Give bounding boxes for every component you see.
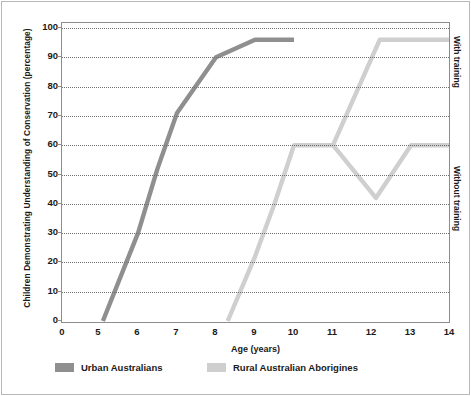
legend-label: Urban Australians xyxy=(81,362,162,373)
x-tick-label: 12 xyxy=(356,327,386,337)
y-tick-label: 80 xyxy=(30,81,58,91)
series-line xyxy=(333,145,449,198)
y-tick-mark xyxy=(57,174,61,175)
x-axis-title: Age (years) xyxy=(61,344,450,354)
legend-label: Rural Australian Aborigines xyxy=(233,362,358,373)
y-tick-mark xyxy=(57,56,61,57)
gridline xyxy=(62,175,449,176)
x-tick-label: 10 xyxy=(278,327,308,337)
series-line xyxy=(103,40,294,321)
gridline xyxy=(62,204,449,205)
y-tick-mark xyxy=(57,291,61,292)
x-tick-label: 13 xyxy=(395,327,425,337)
x-axis-tick-labels: 0567891011121314 xyxy=(61,327,450,343)
y-tick-mark xyxy=(57,203,61,204)
x-tick-label: 8 xyxy=(200,327,230,337)
legend-item: Urban Australians xyxy=(55,362,162,373)
chart-legend: Urban AustraliansRural Australian Aborig… xyxy=(55,362,455,382)
gridline xyxy=(62,262,449,263)
series-lines-layer xyxy=(62,23,449,322)
y-tick-mark xyxy=(57,232,61,233)
y-tick-label: 70 xyxy=(30,110,58,120)
gridline xyxy=(62,57,449,58)
x-tick-label: 14 xyxy=(434,327,464,337)
gridline xyxy=(62,28,449,29)
x-tick-label: 11 xyxy=(317,327,347,337)
y-tick-label: 0 xyxy=(30,315,58,325)
x-tick-label: 9 xyxy=(239,327,269,337)
y-tick-mark xyxy=(57,261,61,262)
series-line xyxy=(333,40,449,145)
legend-item: Rural Australian Aborigines xyxy=(207,362,358,373)
gridline xyxy=(62,233,449,234)
gridline xyxy=(62,116,449,117)
y-tick-label: 10 xyxy=(30,286,58,296)
plot-area xyxy=(61,22,450,323)
y-tick-mark xyxy=(57,86,61,87)
conservation-understanding-line-chart: Children Demonstrating Understanding of … xyxy=(0,0,471,396)
y-tick-label: 60 xyxy=(30,139,58,149)
gridline xyxy=(62,292,449,293)
y-tick-label: 30 xyxy=(30,227,58,237)
y-tick-mark xyxy=(57,27,61,28)
gridline xyxy=(62,145,449,146)
x-tick-label: 0 xyxy=(47,327,77,337)
y-tick-mark xyxy=(57,320,61,321)
y-tick-label: 100 xyxy=(30,22,58,32)
y-tick-label: 40 xyxy=(30,198,58,208)
x-tick-label: 7 xyxy=(161,327,191,337)
x-tick-label: 5 xyxy=(83,327,113,337)
annotation-without-training: Without training xyxy=(452,166,462,286)
y-tick-label: 90 xyxy=(30,52,58,62)
x-tick-label: 6 xyxy=(122,327,152,337)
legend-swatch-icon xyxy=(55,363,74,372)
legend-swatch-icon xyxy=(207,363,226,372)
y-tick-label: 50 xyxy=(30,169,58,179)
y-tick-label: 20 xyxy=(30,257,58,267)
gridline xyxy=(62,87,449,88)
annotation-with-training: With training xyxy=(452,36,462,156)
y-axis-tick-labels: 0102030405060708090100 xyxy=(27,22,58,323)
y-tick-mark xyxy=(57,144,61,145)
y-tick-mark xyxy=(57,115,61,116)
